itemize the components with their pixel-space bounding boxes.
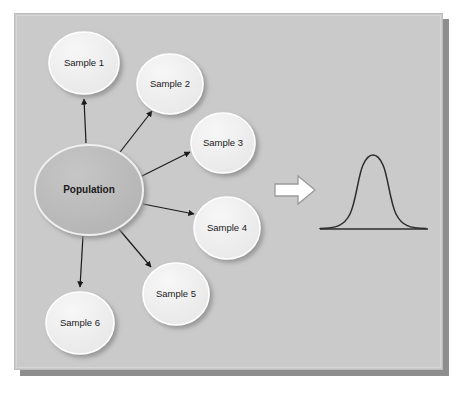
normal-curve-path (320, 155, 426, 229)
arrow-population-to-sample-2 (117, 111, 152, 156)
sample-node-1[interactable] (49, 32, 119, 94)
sample-node-5[interactable] (143, 263, 209, 325)
arrow-population-to-sample-6 (80, 236, 83, 287)
arrow-population-to-sample-4 (143, 204, 194, 214)
sample-node-2[interactable] (137, 54, 203, 114)
arrow-population-to-sample-1 (84, 99, 86, 143)
arrow-population-to-sample-3 (140, 152, 190, 177)
sample-node-6[interactable] (46, 292, 114, 354)
transform-arrow-icon (275, 176, 315, 204)
sample-node-4[interactable] (194, 197, 260, 259)
diagram-graphics (0, 0, 462, 394)
distribution-chart (320, 155, 428, 229)
arrow-population-to-sample-5 (118, 228, 151, 267)
population-node-group (35, 145, 143, 235)
diagram-canvas: Population Sample 1 Sample 2 Sample 3 Sa… (0, 0, 462, 394)
sample-node-3[interactable] (191, 113, 255, 173)
population-node[interactable] (35, 145, 143, 235)
